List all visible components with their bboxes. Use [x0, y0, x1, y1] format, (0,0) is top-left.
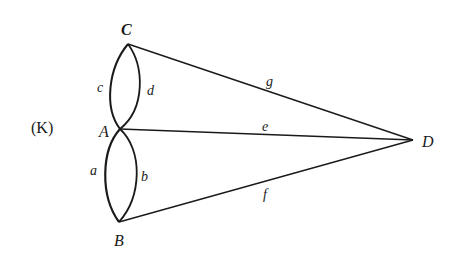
edge-label-f: f — [263, 187, 269, 202]
node-label-d: D — [421, 133, 434, 150]
edge-label-b: b — [141, 169, 148, 184]
edge-b — [119, 129, 137, 222]
edge-label-e: e — [262, 119, 268, 134]
node-label-b: B — [114, 232, 124, 249]
edge-c — [110, 44, 128, 129]
edge-g — [128, 44, 413, 140]
edge-d — [120, 44, 140, 129]
edge-a — [105, 129, 120, 222]
edge-label-d: d — [147, 83, 155, 98]
edge-f — [119, 140, 413, 222]
node-label-a: A — [98, 123, 109, 140]
edge-label-a: a — [90, 163, 97, 178]
edge-label-c: c — [97, 80, 104, 95]
konigsberg-graph-diagram: C A B D c d a b g e f (K) — [0, 0, 460, 261]
node-label-c: C — [121, 21, 132, 38]
figure-label: (K) — [31, 119, 53, 137]
edge-label-g: g — [266, 74, 273, 89]
